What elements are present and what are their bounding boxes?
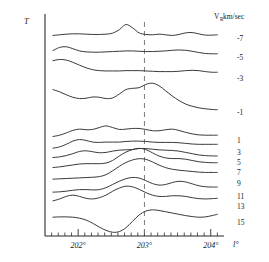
trace-line (53, 126, 217, 137)
trace-line (53, 25, 217, 36)
series-label: 15 (237, 218, 245, 227)
x-tick-label: 202° (71, 241, 87, 250)
trace-line (53, 148, 217, 157)
x-axis-title: l° (233, 239, 239, 249)
trace-line (53, 83, 217, 110)
trace-line (53, 210, 217, 233)
velocity-profile-chart: -7-5-3-113579111315 202°203°204° T l° V … (0, 0, 269, 262)
series-label: -7 (237, 34, 243, 43)
series-label: 3 (237, 148, 241, 157)
trace-line (53, 59, 217, 72)
series-label: 7 (237, 168, 241, 177)
series-label: -1 (237, 108, 243, 117)
x-axis-ticks (52, 229, 218, 236)
series-label: 9 (237, 179, 241, 188)
chart-figure: -7-5-3-113579111315 202°203°204° T l° V … (0, 0, 269, 262)
trace-line (53, 186, 217, 201)
series-label: 5 (237, 158, 241, 167)
series-label: 11 (237, 192, 244, 201)
series-label: 1 (237, 136, 241, 145)
trace-line (53, 159, 217, 180)
x-tick-label: 203° (137, 241, 153, 250)
series-label: -3 (237, 74, 243, 83)
axis-group (45, 14, 224, 236)
legend-header: V R km/sec (214, 12, 245, 22)
trace-line (53, 47, 217, 54)
x-tick-labels-group: 202°203°204° (71, 241, 220, 250)
y-axis-title: T (24, 16, 30, 26)
series-label: -5 (237, 53, 243, 62)
series-labels-group: -7-5-3-113579111315 (237, 34, 245, 227)
trace-line (53, 140, 217, 149)
series-label: 13 (237, 202, 245, 211)
trace-group (53, 25, 217, 233)
legend-header-unit: km/sec (223, 12, 245, 21)
x-tick-label: 204° (203, 241, 219, 250)
trace-line (53, 148, 217, 167)
trace-line (53, 177, 217, 192)
